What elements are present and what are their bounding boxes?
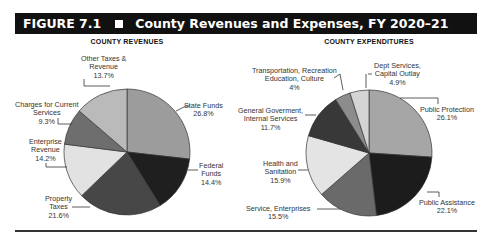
label-dept-services: Dept Services, Capital Outlay 4.9%: [374, 62, 421, 87]
pie-slice-state-funds: [127, 89, 190, 159]
label-value: 4.9%: [374, 79, 421, 87]
leader-other-taxes: [84, 79, 110, 86]
leader-enterprise: [46, 163, 67, 167]
label-value: 11.7%: [238, 124, 303, 132]
label-value: 14.4%: [199, 179, 223, 187]
leader-assistance: [427, 192, 439, 197]
label-value: 14.2%: [29, 155, 62, 163]
label-value: 15.5%: [246, 213, 310, 221]
label-public-assistance: Public Assistance 22.1%: [419, 199, 475, 216]
label-value: 22.1%: [419, 207, 475, 215]
pie-slice-public-protection: [369, 90, 432, 157]
label-other-taxes: Other Taxes & Revenue 13.7%: [81, 55, 126, 80]
label-enterprise: Enterprise Revenue 14.2%: [29, 138, 62, 163]
label-property-taxes: Property Taxes 21.6%: [45, 195, 72, 220]
bottom-rule: [15, 230, 477, 232]
label-public-protection: Public Protection 26.1%: [420, 106, 474, 123]
revenues-pie: [64, 89, 190, 215]
label-state-funds: State Funds 26.8%: [184, 102, 223, 119]
label-general-government: General Goverment, Internal Services 11.…: [238, 107, 303, 132]
label-value: 4%: [252, 84, 337, 92]
label-value: 13.7%: [81, 72, 126, 80]
label-value: 26.8%: [184, 110, 223, 118]
label-value: 9.3%: [15, 118, 79, 126]
label-charges: Charges for Current Services 9.3%: [15, 101, 79, 126]
label-value: 15.9%: [263, 177, 298, 185]
label-value: 21.6%: [45, 212, 72, 220]
expenditures-pie: [306, 90, 432, 216]
label-service-enterprises: Service, Enterprises 15.5%: [246, 205, 310, 222]
label-federal-funds: Federal Funds 14.4%: [199, 162, 223, 187]
label-value: 26.1%: [420, 114, 474, 122]
label-health-sanitation: Health and Sanitation 15.9%: [263, 160, 298, 185]
label-transportation: Transportation, Recreation Education, Cu…: [252, 67, 337, 92]
